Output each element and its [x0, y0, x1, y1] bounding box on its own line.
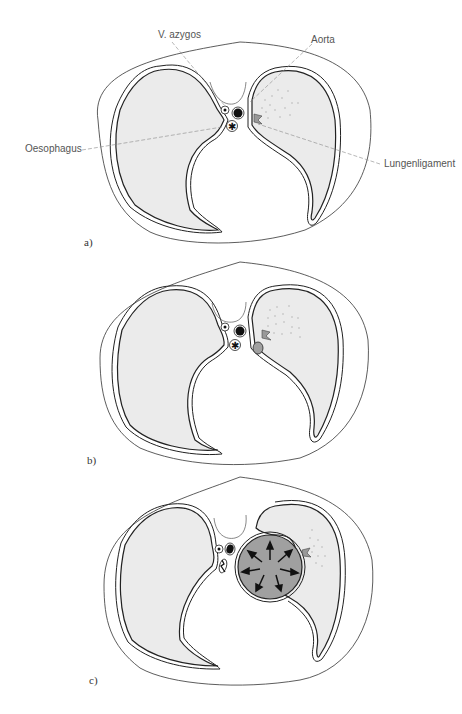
right-lung	[117, 290, 224, 451]
panel-c	[104, 477, 373, 685]
vertebra	[210, 82, 246, 104]
label-azygos: V. azygos	[158, 29, 201, 40]
left-lung	[252, 289, 338, 438]
right-lung	[120, 508, 218, 666]
svg-text:✱: ✱	[228, 121, 236, 132]
svg-text:✱: ✱	[231, 340, 239, 351]
label-oesophagus: Oesophagus	[25, 143, 82, 154]
right-lung	[116, 69, 224, 230]
panel-label-a: a)	[84, 236, 93, 248]
label-aorta: Aorta	[311, 34, 335, 45]
panel-a: ✱	[82, 42, 380, 243]
panel-label-c: c)	[89, 674, 98, 686]
panel-label-b: b)	[87, 454, 96, 466]
vertebra	[214, 515, 246, 538]
label-ligament: Lungenligament	[384, 158, 455, 169]
left-lung	[252, 71, 336, 220]
panel-b: ✱	[100, 262, 368, 465]
vertebra	[212, 302, 246, 322]
small-mass	[253, 342, 263, 354]
diagram-canvas: ✱ ✱	[0, 0, 462, 714]
